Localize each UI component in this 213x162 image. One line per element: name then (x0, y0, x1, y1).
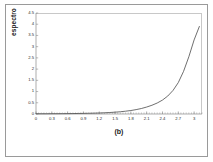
y-axis-tick-label: 3.5 (28, 33, 34, 37)
y-axis-tick-label: 2.5 (28, 56, 34, 60)
x-axis-tick-label: 2.1 (144, 116, 150, 121)
y-axis-tick-label: 2 (32, 67, 34, 71)
x-axis-tick-label: 1.8 (128, 116, 134, 121)
y-axis-tick-label: 0 (32, 112, 34, 116)
x-axis-tick-label: 0.9 (81, 116, 87, 121)
y-axis-tick-label: 4.5 (28, 11, 34, 15)
x-axis-tick-label: 0.3 (49, 116, 55, 121)
y-axis-title: espectro (9, 0, 19, 48)
x-axis-tick-labels: 00.30.60.91.21.51.82.12.42.73 (36, 116, 202, 124)
x-axis-tick-label: 1.2 (96, 116, 102, 121)
x-axis-tick-label: 3 (193, 116, 195, 121)
y-axis-tick-label: 1 (32, 89, 34, 93)
figure-caption: (b) (36, 128, 202, 135)
axis-lines (36, 13, 202, 114)
y-axis-tick-label: 1.5 (28, 78, 34, 82)
y-axis-tick-label: 3 (32, 45, 34, 49)
x-axis-tick-label: 1.5 (112, 116, 118, 121)
data-series-line (36, 26, 199, 113)
x-axis-tick-label: 0 (35, 116, 37, 121)
figure-container: espectro 00.511.522.533.544.5 00.30.60.9… (0, 0, 213, 162)
x-axis-tick-label: 2.4 (160, 116, 166, 121)
y-axis-tick-label: 4 (32, 22, 34, 26)
chart-plot (36, 13, 202, 114)
x-axis-tick-label: 2.7 (175, 116, 181, 121)
y-axis-tick-label: 0.5 (28, 101, 34, 105)
x-axis-tick-label: 0.6 (65, 116, 71, 121)
y-axis-tick-labels: 00.511.522.533.544.5 (22, 13, 34, 114)
